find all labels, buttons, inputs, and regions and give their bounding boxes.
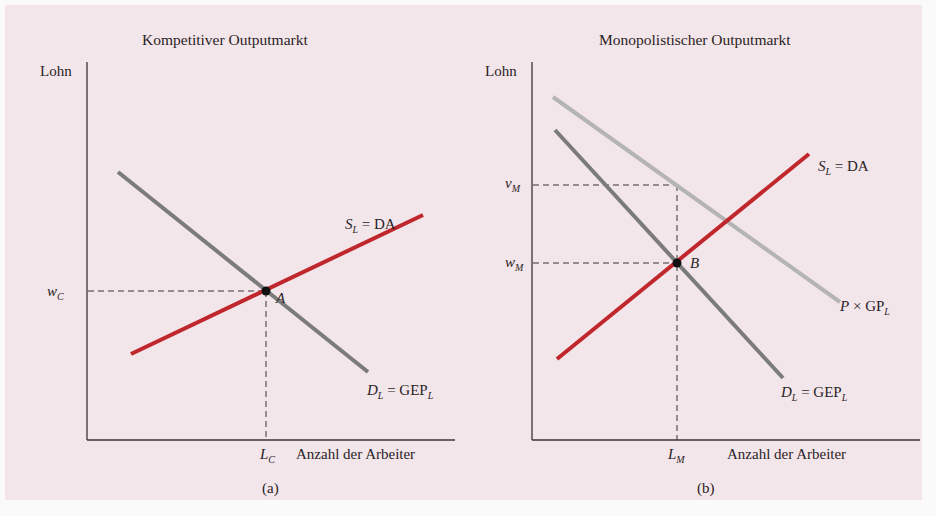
quantity-label-a: LC — [260, 447, 275, 462]
quantity-label-b: LM — [668, 447, 685, 462]
demand-curve-b — [555, 130, 783, 378]
panel-b-y-axis-label: Lohn — [485, 64, 517, 79]
wage-label-a: wC — [47, 284, 64, 299]
demand-label-b: DL = GEPL — [781, 385, 847, 400]
value-product-label-b: P × GPL — [840, 299, 890, 314]
wage-label-b: wM — [505, 255, 523, 270]
panel-a-title: Kompetitiver Outputmarkt — [142, 32, 308, 48]
value-label-b: vM — [505, 176, 520, 191]
panel-b-title: Monopolistischer Outputmarkt — [599, 32, 791, 48]
panel-a-y-axis-label: Lohn — [40, 64, 72, 79]
supply-curve-a — [131, 215, 423, 354]
equilibrium-label-a: A — [276, 291, 285, 306]
supply-label-b: SL = DA — [818, 159, 869, 174]
equilibrium-label-b: B — [690, 256, 699, 271]
panel-b-x-axis-label: Anzahl der Arbeiter — [727, 447, 846, 462]
demand-label-a: DL = GEPL — [367, 383, 433, 398]
panel-a-caption: (a) — [262, 481, 279, 496]
panel-b-caption: (b) — [697, 481, 715, 496]
panel-a-x-axis-label: Anzahl der Arbeiter — [296, 447, 415, 462]
equilibrium-point-b — [673, 259, 682, 268]
value-product-curve-b — [553, 97, 840, 302]
equilibrium-point-a — [262, 287, 271, 296]
diagram-canvas — [0, 0, 936, 516]
panel-b-graph — [532, 62, 920, 440]
supply-label-a: SL = DA — [345, 217, 396, 232]
